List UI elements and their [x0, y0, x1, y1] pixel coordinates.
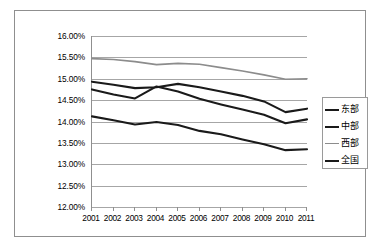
series-lines — [92, 36, 307, 207]
legend-item-label: 中部 — [341, 122, 359, 131]
x-axis-tick — [134, 207, 135, 211]
x-axis-tick — [242, 207, 243, 211]
y-axis-tick-label: 13.50% — [57, 138, 85, 148]
y-axis-tick-label: 12.50% — [57, 181, 85, 191]
legend-item-label: 全国 — [341, 156, 359, 165]
x-axis-tick-label: 2009 — [254, 213, 271, 223]
x-axis-tick — [285, 207, 286, 211]
x-axis-tick — [199, 207, 200, 211]
legend-line-icon — [325, 126, 339, 128]
x-axis-tick-label: 2011 — [298, 213, 315, 223]
x-axis-tick-label: 2003 — [125, 213, 142, 223]
legend-item-label: 西部 — [341, 139, 359, 148]
chart-legend: 东部中部西部全国 — [322, 97, 368, 169]
x-axis-tick-label: 2007 — [211, 213, 228, 223]
y-axis-tick-label: 15.50% — [57, 52, 85, 62]
x-axis-tick — [306, 207, 307, 211]
legend-line-icon — [325, 109, 339, 111]
x-axis-tick — [113, 207, 114, 211]
legend-item[interactable]: 全国 — [325, 152, 365, 169]
x-axis-tick — [177, 207, 178, 211]
x-axis-tick-label: 2010 — [276, 213, 293, 223]
x-axis-tick-label: 2005 — [168, 213, 185, 223]
x-axis-tick-label: 2006 — [190, 213, 207, 223]
legend-item[interactable]: 中部 — [325, 118, 365, 135]
y-axis-tick-label: 16.00% — [57, 31, 85, 41]
y-axis-tick-label: 12.00% — [57, 202, 85, 212]
plot-area — [91, 36, 307, 208]
legend-item[interactable]: 西部 — [325, 135, 365, 152]
x-axis-tick-label: 2001 — [82, 213, 99, 223]
x-axis-tick — [156, 207, 157, 211]
legend-item-label: 东部 — [341, 105, 359, 114]
y-axis-tick-label: 14.50% — [57, 95, 85, 105]
x-axis-labels: 2001200220032004200520062007200820092010… — [85, 213, 317, 227]
y-axis-tick-label: 13.00% — [57, 159, 85, 169]
legend-line-icon — [325, 160, 339, 162]
series-line — [92, 116, 307, 150]
x-axis-tick — [220, 207, 221, 211]
y-axis-labels: 16.00%15.50%15.00%14.50%14.00%13.50%13.0… — [39, 36, 85, 207]
series-line — [92, 59, 307, 80]
y-axis-tick-label: 14.00% — [57, 117, 85, 127]
series-line — [92, 86, 307, 123]
legend-line-icon — [325, 143, 339, 144]
x-axis-tick-label: 2004 — [147, 213, 164, 223]
x-axis-tick — [263, 207, 264, 211]
x-axis-ticks — [91, 207, 306, 212]
x-axis-tick — [91, 207, 92, 211]
chart-container: 16.00%15.50%15.00%14.50%14.00%13.50%13.0… — [14, 10, 366, 237]
x-axis-tick-label: 2002 — [104, 213, 121, 223]
legend-item[interactable]: 东部 — [325, 101, 365, 118]
y-axis-tick-label: 15.00% — [57, 74, 85, 84]
chart-plot-wrapper: 16.00%15.50%15.00%14.50%14.00%13.50%13.0… — [15, 11, 365, 236]
x-axis-tick-label: 2008 — [233, 213, 250, 223]
